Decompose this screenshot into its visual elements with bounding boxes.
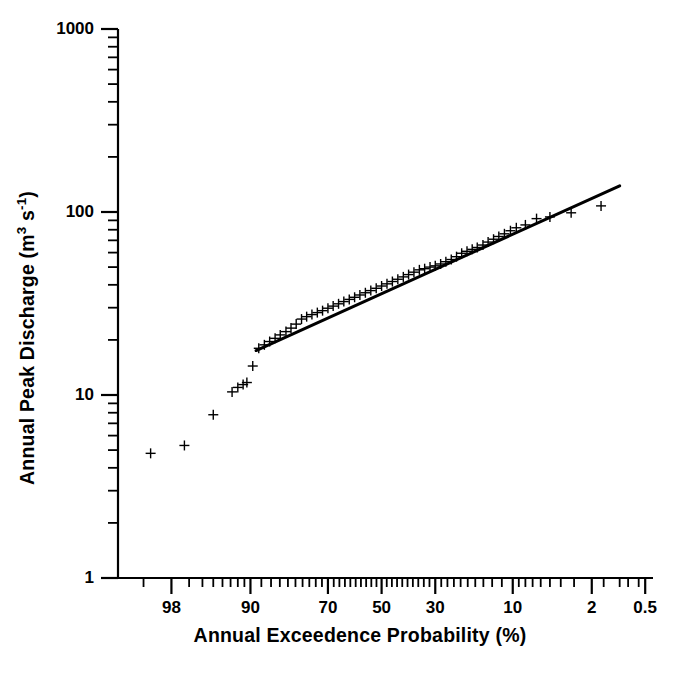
data-point-marker xyxy=(596,201,606,211)
data-point-marker xyxy=(377,281,387,291)
x-tick-label: 70 xyxy=(318,598,337,618)
x-tick-label: 98 xyxy=(162,598,181,618)
data-point-marker xyxy=(344,294,354,304)
y-tick-label: 10 xyxy=(0,385,94,405)
data-point-marker xyxy=(146,448,156,458)
data-point-marker xyxy=(208,410,218,420)
x-tick-label: 0.5 xyxy=(633,598,657,618)
x-axis-ticks xyxy=(144,578,646,594)
data-point-marker xyxy=(360,288,370,298)
data-point-marker xyxy=(409,267,419,277)
data-point-marker xyxy=(297,314,307,324)
data-point-marker xyxy=(382,279,392,289)
probability-plot-svg xyxy=(0,0,691,676)
data-point-marker xyxy=(334,299,344,309)
y-axis-title-exponent-3: 3 xyxy=(14,227,29,235)
y-axis-title-prefix: Annual Peak Discharge (m xyxy=(16,234,38,485)
x-tick-label: 2 xyxy=(587,598,596,618)
data-point-marker xyxy=(355,290,365,300)
x-tick-label: 90 xyxy=(241,598,260,618)
data-point-marker xyxy=(387,277,397,287)
data-point-marker xyxy=(227,387,237,397)
y-tick-label: 100 xyxy=(0,202,94,222)
y-tick-label: 1000 xyxy=(0,19,94,39)
data-point-marker xyxy=(404,270,414,280)
data-point-marker xyxy=(328,301,338,311)
fitted-distribution-line xyxy=(256,186,620,351)
data-point-marker xyxy=(366,286,376,296)
x-axis-title: Annual Exceedence Probability (%) xyxy=(60,624,660,647)
data-point-marker xyxy=(307,310,317,320)
data-point-marker xyxy=(318,306,328,316)
x-tick-label: 10 xyxy=(503,598,522,618)
data-point-marker xyxy=(398,272,408,282)
data-point-marker xyxy=(179,440,189,450)
data-point-marker xyxy=(312,308,322,318)
y-tick-label: 1 xyxy=(0,568,94,588)
x-tick-label: 30 xyxy=(426,598,445,618)
data-point-marker xyxy=(302,312,312,322)
y-axis-ticks xyxy=(101,29,118,578)
data-point-marker xyxy=(393,274,403,284)
data-point-marker xyxy=(350,292,360,302)
data-point-marker xyxy=(339,297,349,307)
y-axis-title-suffix: ) xyxy=(16,191,38,198)
data-point-marker xyxy=(371,283,381,293)
data-point-marker xyxy=(323,303,333,313)
data-point-group xyxy=(146,201,606,458)
x-tick-label: 50 xyxy=(372,598,391,618)
figure-container: Annual Peak Discharge (m3 s-1) Annual Ex… xyxy=(0,0,691,676)
data-point-marker xyxy=(248,361,258,371)
